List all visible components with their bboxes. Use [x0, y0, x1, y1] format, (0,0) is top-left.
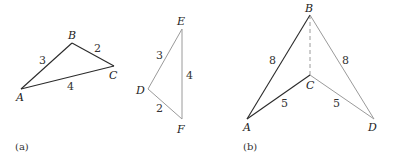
vertex-label-e: E	[176, 15, 185, 28]
caption-a: (a)	[15, 141, 29, 152]
caption-b: (b)	[243, 141, 257, 152]
vertex-label-d: D	[367, 121, 377, 134]
edge-ab	[21, 43, 72, 89]
vertex-label-c: C	[109, 69, 118, 82]
edge-length-ac: 4	[67, 80, 74, 93]
edge-length-ef: 4	[186, 69, 193, 82]
triangle-def: E D F 3 4 2	[135, 15, 193, 136]
edge-ab	[247, 15, 310, 119]
vertex-label-d: D	[135, 84, 145, 97]
figure-b: B C A D 8 8 5 5	[242, 2, 377, 134]
edge-bd	[310, 15, 374, 119]
vertex-label-a: A	[242, 121, 251, 134]
edge-length-bc: 2	[94, 42, 101, 55]
triangle-abc: B C A 3 2 4	[15, 29, 118, 104]
vertex-label-b: B	[67, 29, 76, 42]
vertex-label-c: C	[306, 79, 315, 92]
edge-length-ab: 3	[39, 54, 46, 67]
edge-df	[148, 89, 182, 119]
edge-length-df: 2	[156, 102, 163, 115]
diagram-canvas: B C A 3 2 4 E D F 3 4 2 (a) B C A D 8 8 …	[0, 0, 399, 162]
edge-length-ab: 8	[269, 54, 276, 67]
vertex-label-a: A	[15, 91, 24, 104]
edge-de	[148, 29, 182, 89]
edge-ac	[247, 75, 310, 119]
edge-cd	[310, 75, 374, 119]
edge-bc	[72, 43, 114, 66]
edge-length-bd: 8	[342, 54, 349, 67]
vertex-label-f: F	[176, 123, 185, 136]
vertex-label-b: B	[304, 2, 313, 15]
edge-length-cd: 5	[333, 97, 340, 110]
edge-length-ac: 5	[281, 97, 288, 110]
edge-length-de: 3	[156, 49, 163, 62]
